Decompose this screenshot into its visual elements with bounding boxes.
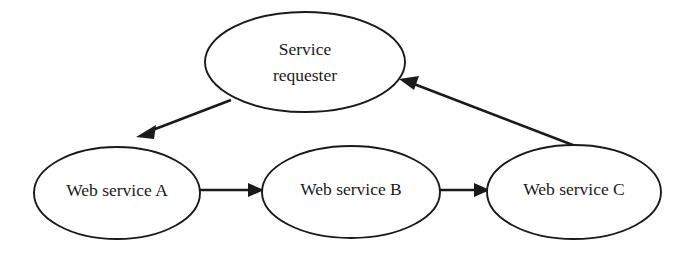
edge-requester-to-a-line: [150, 100, 231, 131]
edge-requester-to-a-arrowhead: [136, 125, 156, 139]
service-requester-label-line1: Service: [279, 39, 332, 59]
node-service-requester[interactable]: Service requester: [205, 12, 405, 112]
edge-c-to-requester: [399, 76, 578, 147]
edge-requester-to-a: [136, 100, 231, 139]
edge-b-to-c: [440, 183, 490, 197]
node-web-service-b[interactable]: Web service B: [262, 146, 440, 238]
service-requester-label-line2: requester: [273, 65, 337, 85]
node-web-service-c[interactable]: Web service C: [487, 145, 661, 239]
web-service-b-label: Web service B: [300, 179, 402, 199]
web-service-composition-diagram: Service requester Web service A Web serv…: [0, 0, 691, 260]
edge-c-to-requester-arrowhead: [399, 76, 419, 90]
web-service-c-label: Web service C: [523, 179, 625, 199]
edge-a-to-b: [200, 183, 264, 197]
service-requester-ellipse[interactable]: [205, 12, 405, 112]
web-service-a-label: Web service A: [66, 180, 168, 200]
edge-c-to-requester-line: [414, 84, 578, 147]
node-web-service-a[interactable]: Web service A: [34, 147, 200, 239]
diagram-canvas: Service requester Web service A Web serv…: [0, 0, 691, 260]
